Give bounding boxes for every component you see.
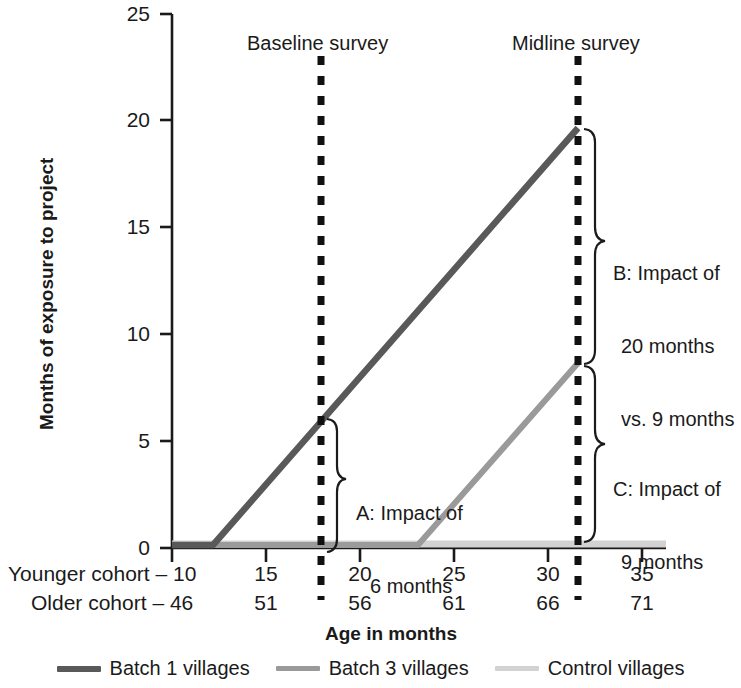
- annotation-a-line1: A: Impact of: [356, 501, 463, 525]
- baseline-survey-label: Baseline survey: [247, 32, 388, 56]
- brace-annotation-b: [584, 129, 605, 364]
- x-axis-title: Age in months: [325, 623, 457, 645]
- y-tick-label: 0: [100, 536, 150, 561]
- midline-survey-label: Midline survey: [512, 32, 640, 56]
- legend-swatch-icon: [495, 666, 539, 671]
- brace-annotation-c: [584, 366, 605, 542]
- x-tick-label-younger: 15: [236, 562, 296, 587]
- x-tick-label-younger: 35: [612, 562, 672, 587]
- chart-legend: Batch 1 villages Batch 3 villages Contro…: [0, 657, 741, 680]
- annotation-c-line1: C: Impact of: [613, 477, 721, 501]
- y-tick-label: 5: [100, 429, 150, 454]
- x-tick-label-younger: 25: [424, 562, 484, 587]
- x-tick-label-older: 61: [424, 591, 484, 616]
- legend-item-batch-3-villages: Batch 3 villages: [276, 657, 469, 680]
- x-tick-label-younger: 20: [330, 562, 390, 587]
- x-tick-label-older: 56: [330, 591, 390, 616]
- y-tick-label: 20: [100, 108, 150, 133]
- legend-item-control-villages: Control villages: [495, 657, 685, 680]
- x-tick-label-older: 66: [518, 591, 578, 616]
- x-tick-label-older: 51: [236, 591, 296, 616]
- legend-label: Control villages: [548, 657, 685, 680]
- x-tick-label-older: 71: [612, 591, 672, 616]
- brace-annotation-a: [327, 419, 346, 552]
- y-tick-label: 10: [100, 322, 150, 347]
- legend-swatch-icon: [57, 666, 101, 672]
- annotation-b-line2: 20 months: [613, 334, 734, 358]
- annotation-b-line1: B: Impact of: [613, 261, 734, 285]
- legend-item-batch-1-villages: Batch 1 villages: [57, 657, 250, 680]
- annotation-a: A: Impact of 6 months: [356, 452, 463, 647]
- older-cohort-label: Older cohort – 46: [31, 591, 193, 616]
- legend-swatch-icon: [276, 666, 320, 671]
- legend-label: Batch 1 villages: [110, 657, 250, 680]
- y-axis-title: Months of exposure to project: [36, 158, 58, 430]
- younger-cohort-label: Younger cohort – 10: [8, 562, 196, 587]
- y-tick-label: 15: [100, 215, 150, 240]
- chart-figure: Months of exposure to project 25 20 15 1…: [0, 0, 741, 688]
- legend-label: Batch 3 villages: [329, 657, 469, 680]
- y-axis-ticks: [160, 14, 172, 548]
- y-tick-label: 25: [100, 2, 150, 27]
- x-tick-label-younger: 30: [518, 562, 578, 587]
